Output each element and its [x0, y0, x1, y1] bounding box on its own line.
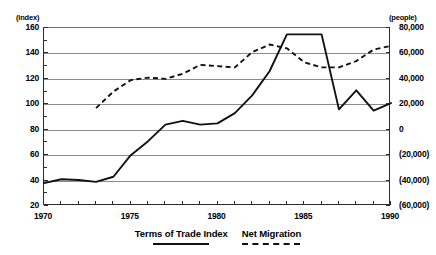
left-axis-tick-mark: [44, 27, 48, 28]
x-axis-tick-mark: [269, 201, 270, 205]
right-axis-tick-label: 80,000: [399, 22, 436, 32]
right-axis-tick-label: (60,000): [399, 200, 436, 210]
left-axis-minor-tick-mark: [44, 91, 47, 92]
left-axis-minor-tick-mark: [44, 116, 47, 117]
right-axis-tick-mark: [386, 52, 390, 53]
x-axis-tick-mark: [147, 201, 148, 205]
x-axis-tick-mark: [390, 201, 391, 205]
left-axis-tick-mark: [44, 180, 48, 181]
x-axis-tick-mark: [182, 201, 183, 205]
right-axis-tick-mark: [386, 103, 390, 104]
legend-label-net-migration: Net Migration: [242, 228, 301, 239]
right-axis-tick-label: (20,000): [399, 149, 436, 159]
legend-swatch-dashed-line: [242, 243, 300, 245]
x-axis-tick-mark: [234, 201, 235, 205]
left-axis-tick-mark: [44, 154, 48, 155]
x-axis-tick-label: 1980: [197, 211, 237, 221]
left-axis-tick-label: 20: [9, 200, 39, 210]
left-axis-minor-tick-mark: [44, 141, 47, 142]
x-axis-tick-mark: [78, 201, 79, 205]
x-axis-tick-mark: [60, 201, 61, 205]
left-axis-tick-label: 80: [9, 124, 39, 134]
right-axis-tick-label: 20,000: [399, 98, 436, 108]
left-axis-tick-mark: [44, 129, 48, 130]
left-axis-tick-mark: [44, 78, 48, 79]
x-axis-tick-mark: [303, 201, 304, 205]
x-axis-tick-label: 1985: [283, 211, 323, 221]
left-axis-tick-mark: [44, 103, 48, 104]
x-axis-tick-mark: [43, 201, 44, 205]
x-axis-tick-mark: [112, 201, 113, 205]
x-axis-tick-mark: [338, 201, 339, 205]
chart-legend: Terms of Trade Index Net Migration: [0, 228, 436, 245]
right-axis-unit-label: (people): [389, 13, 417, 22]
left-axis-tick-mark: [44, 205, 48, 206]
left-axis-tick-label: 60: [9, 149, 39, 159]
x-axis-tick-mark: [286, 201, 287, 205]
x-axis-tick-mark: [355, 201, 356, 205]
terms-of-trade-index-line: [44, 34, 391, 183]
x-axis-tick-mark: [217, 201, 218, 205]
legend-swatch-solid-line: [153, 243, 209, 245]
left-axis-tick-label: 120: [9, 73, 39, 83]
legend-label-terms-of-trade: Terms of Trade Index: [135, 228, 228, 239]
x-axis-tick-label: 1975: [110, 211, 150, 221]
x-axis-tick-label: 1990: [370, 211, 410, 221]
right-axis-tick-mark: [386, 27, 390, 28]
left-axis-tick-label: 100: [9, 98, 39, 108]
left-axis-minor-tick-mark: [44, 65, 47, 66]
x-axis-tick-mark: [199, 201, 200, 205]
left-axis-tick-label: 140: [9, 47, 39, 57]
left-axis-tick-mark: [44, 52, 48, 53]
left-axis-minor-tick-mark: [44, 192, 47, 193]
x-axis-tick-mark: [373, 201, 374, 205]
right-axis-tick-mark: [386, 78, 390, 79]
right-axis-tick-mark: [386, 205, 390, 206]
left-axis-unit-label: (index): [16, 13, 39, 22]
legend-item-terms-of-trade: Terms of Trade Index: [135, 228, 228, 245]
legend-item-net-migration: Net Migration: [242, 228, 301, 245]
plot-area: [43, 27, 390, 205]
right-axis-tick-mark: [386, 180, 390, 181]
right-axis-tick-label: 60,000: [399, 47, 436, 57]
x-axis-tick-label: 1970: [23, 211, 63, 221]
left-axis-minor-tick-mark: [44, 40, 47, 41]
terms-of-trade-net-migration-chart: (index) (people) 20406080100120140160 (6…: [0, 0, 436, 255]
x-axis-tick-mark: [321, 201, 322, 205]
series-lines: [44, 28, 391, 206]
x-axis-tick-mark: [251, 201, 252, 205]
left-axis-minor-tick-mark: [44, 167, 47, 168]
left-axis-tick-label: 160: [9, 22, 39, 32]
right-axis-tick-label: 40,000: [399, 73, 436, 83]
x-axis-tick-mark: [164, 201, 165, 205]
x-axis-tick-mark: [130, 201, 131, 205]
net-migration-line: [96, 45, 391, 109]
right-axis-tick-label: 0: [399, 124, 436, 134]
x-axis-tick-mark: [95, 201, 96, 205]
left-axis-tick-label: 40: [9, 175, 39, 185]
right-axis-tick-mark: [386, 154, 390, 155]
right-axis-tick-label: (40,000): [399, 175, 436, 185]
right-axis-tick-mark: [386, 129, 390, 130]
